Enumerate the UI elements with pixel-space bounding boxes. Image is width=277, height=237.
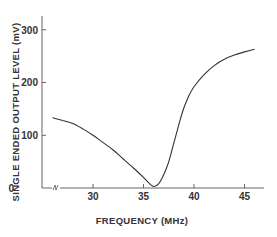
data-line <box>53 49 255 186</box>
x-tick-label: 30 <box>87 191 99 202</box>
y-tick-label: 300 <box>21 25 38 36</box>
x-axis-label: FREQUENCY (MHz) <box>96 215 188 226</box>
y-tick-label: 100 <box>21 130 38 141</box>
axis-break-icon <box>53 185 58 190</box>
x-tick-label: 40 <box>188 191 200 202</box>
chart: 300 200 100 0 30 35 40 45 FREQUENCY (MHz… <box>0 0 277 237</box>
y-axis-label: SINGLE ENDED OUTPUT LEVEL (mV) <box>10 23 21 202</box>
x-tick-label: 35 <box>138 191 150 202</box>
y-tick-label: 200 <box>21 77 38 88</box>
x-tick-label: 45 <box>239 191 251 202</box>
